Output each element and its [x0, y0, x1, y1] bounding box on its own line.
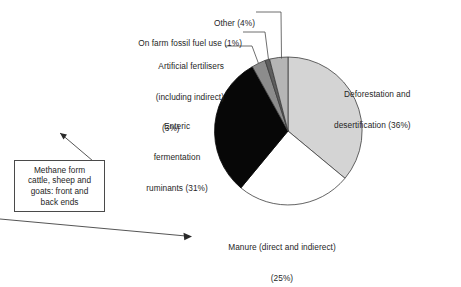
slice-label-enteric-line2: fermentation	[128, 152, 226, 162]
slice-label-manure-line1: Manure (direct and indierect)	[196, 242, 368, 252]
leader-line-other	[256, 12, 282, 59]
slice-label-fertilisers-line1: Artificial fertilisers	[156, 61, 224, 71]
slice-label-other-text: Other (4%)	[214, 18, 255, 28]
slice-label-enteric-fermentation: Enteric fermentation ruminants (31%)	[128, 100, 226, 214]
callout-arrow-to-enteric-slice	[0, 219, 186, 236]
slice-label-enteric-line3: ruminants (31%)	[128, 183, 226, 193]
methane-callout-box: Methane form cattle, sheep and goats: fr…	[14, 160, 105, 212]
slice-label-deforestation-line1: Deforestation and	[334, 89, 458, 99]
slice-label-enteric-line1: Enteric	[128, 121, 226, 131]
methane-callout-text: Methane form cattle, sheep and goats: fr…	[25, 165, 94, 207]
slice-label-deforestation-line2: desertification (36%)	[334, 120, 458, 130]
slice-label-manure: Manure (direct and indierect) (25%)	[196, 221, 368, 287]
slice-label-deforestation: Deforestation and desertification (36%)	[334, 68, 458, 151]
callout-arrow-head-lower	[184, 233, 193, 240]
slice-label-manure-line2: (25%)	[196, 273, 368, 283]
